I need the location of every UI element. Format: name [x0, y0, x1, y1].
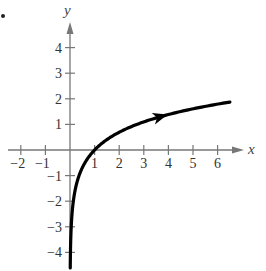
x-tick-label: 2	[116, 156, 123, 171]
bullet-marker	[1, 14, 5, 18]
log-function-chart: −2−1123456−4−3−2−11234 x y	[0, 0, 266, 271]
y-tick-label: 1	[55, 117, 62, 132]
y-tick-label: 3	[55, 66, 62, 81]
y-tick-label: 2	[55, 92, 62, 107]
x-tick-label: −2	[10, 156, 25, 171]
x-axis-arrow-icon	[232, 147, 244, 154]
axes	[8, 22, 244, 268]
x-tick-label: 1	[91, 156, 98, 171]
y-tick-label: −1	[47, 169, 62, 184]
ln-curve	[70, 102, 230, 268]
x-tick-label: 4	[165, 156, 172, 171]
x-tick-label: 5	[190, 156, 197, 171]
y-axis-label: y	[62, 2, 71, 18]
x-tick-label: 3	[140, 156, 147, 171]
curve	[70, 102, 230, 268]
y-tick-label: −4	[47, 245, 62, 260]
x-tick-label: 6	[214, 156, 221, 171]
y-tick-label: −2	[47, 194, 62, 209]
y-tick-label: −3	[47, 220, 62, 235]
y-tick-label: 4	[55, 41, 62, 56]
x-axis-label: x	[247, 141, 255, 157]
direction-arrow-icon	[152, 109, 170, 125]
y-axis-arrow-icon	[67, 22, 74, 34]
